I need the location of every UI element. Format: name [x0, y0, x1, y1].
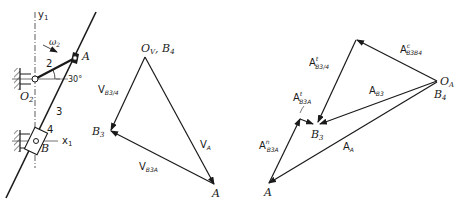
mechanism-diagram: y1 30° 3 2 O2 A ω2 x1 [6, 9, 96, 198]
acceleration-polygon: OA B4 AcB3B4 AtB3/4 AB3 AtB3A B3 AnB3A A… [259, 40, 454, 199]
link-4-label: 4 [47, 124, 53, 135]
x1-axis-label: x1 [62, 135, 72, 148]
pivot-o2-label: O2 [20, 90, 34, 104]
coriolis-label: AcB3B4 [400, 42, 422, 56]
vb3a-label: VB3A [139, 161, 158, 173]
vector-a-t-b3-4 [318, 40, 356, 122]
link-2-label: 2 [46, 58, 52, 69]
point-a-label-v: A [211, 187, 220, 200]
a-t-b3a-label: AtB3A [293, 90, 311, 105]
kinematic-analysis-figure: y1 30° 3 2 O2 A ω2 x1 [0, 0, 462, 207]
point-b-label: B [40, 142, 49, 155]
vb3-4-label: VB3/4 [98, 84, 119, 96]
a-n-b3a-label: AnB3A [259, 138, 279, 153]
link-3-label: 3 [56, 106, 62, 117]
velocity-polygon: OV, B4 VB3/4 B3 VA VB3A A [91, 42, 220, 200]
joint-a [73, 56, 77, 60]
point-a-label-a: A [263, 186, 272, 199]
y1-axis-label: y1 [38, 9, 48, 22]
a-a-label: AA [343, 141, 354, 153]
angle-label: 30° [68, 75, 82, 84]
va-label: VA [200, 139, 211, 151]
vector-v-b3a [111, 131, 214, 184]
omega-label: ω2 [49, 37, 60, 48]
point-b3-label: B3 [91, 125, 105, 139]
a-b3-label: AB3 [369, 85, 384, 97]
vector-a-t-b3a [300, 119, 313, 124]
joint-b [34, 139, 39, 144]
a-t-b3-4-label: AtB3/4 [309, 55, 329, 70]
origin-oa-label: OA [440, 75, 454, 89]
origin-b4-label: B4 [433, 88, 447, 102]
point-b3-label-a: B3 [310, 128, 324, 142]
origin-ov-label: OV, B4 [141, 42, 175, 56]
angle-arc [53, 70, 55, 79]
point-a-label: A [81, 50, 90, 63]
pivot-o2 [32, 76, 38, 82]
vector-a-coriolis [357, 40, 437, 81]
vector-v-a [145, 57, 214, 184]
